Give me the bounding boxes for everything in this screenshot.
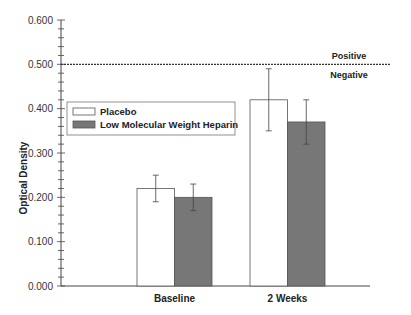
- y-tick-label: 0.300: [28, 148, 53, 159]
- bar: [137, 188, 175, 286]
- legend: PlaceboLow Molecular Weight Heparin: [67, 102, 238, 135]
- bar: [288, 122, 326, 286]
- legend-swatch: [73, 121, 95, 128]
- y-tick-label: 0.100: [28, 236, 53, 247]
- chart: 0.0000.1000.2000.3000.4000.5000.600Posit…: [0, 0, 411, 315]
- positive-label: Positive: [332, 51, 367, 61]
- y-tick-label: 0.400: [28, 103, 53, 114]
- legend-swatch: [73, 108, 95, 115]
- legend-label: Placebo: [100, 106, 137, 117]
- y-tick-label: 0.600: [28, 15, 53, 26]
- x-tick-label: Baseline: [154, 293, 196, 304]
- y-tick-label: 0.200: [28, 192, 53, 203]
- x-tick-label: 2 Weeks: [268, 293, 308, 304]
- negative-label: Negative: [330, 70, 368, 80]
- y-axis-label: Optical Density: [18, 141, 29, 214]
- legend-label: Low Molecular Weight Heparin: [100, 119, 238, 130]
- y-tick-label: 0.500: [28, 59, 53, 70]
- y-tick-label: 0.000: [28, 281, 53, 292]
